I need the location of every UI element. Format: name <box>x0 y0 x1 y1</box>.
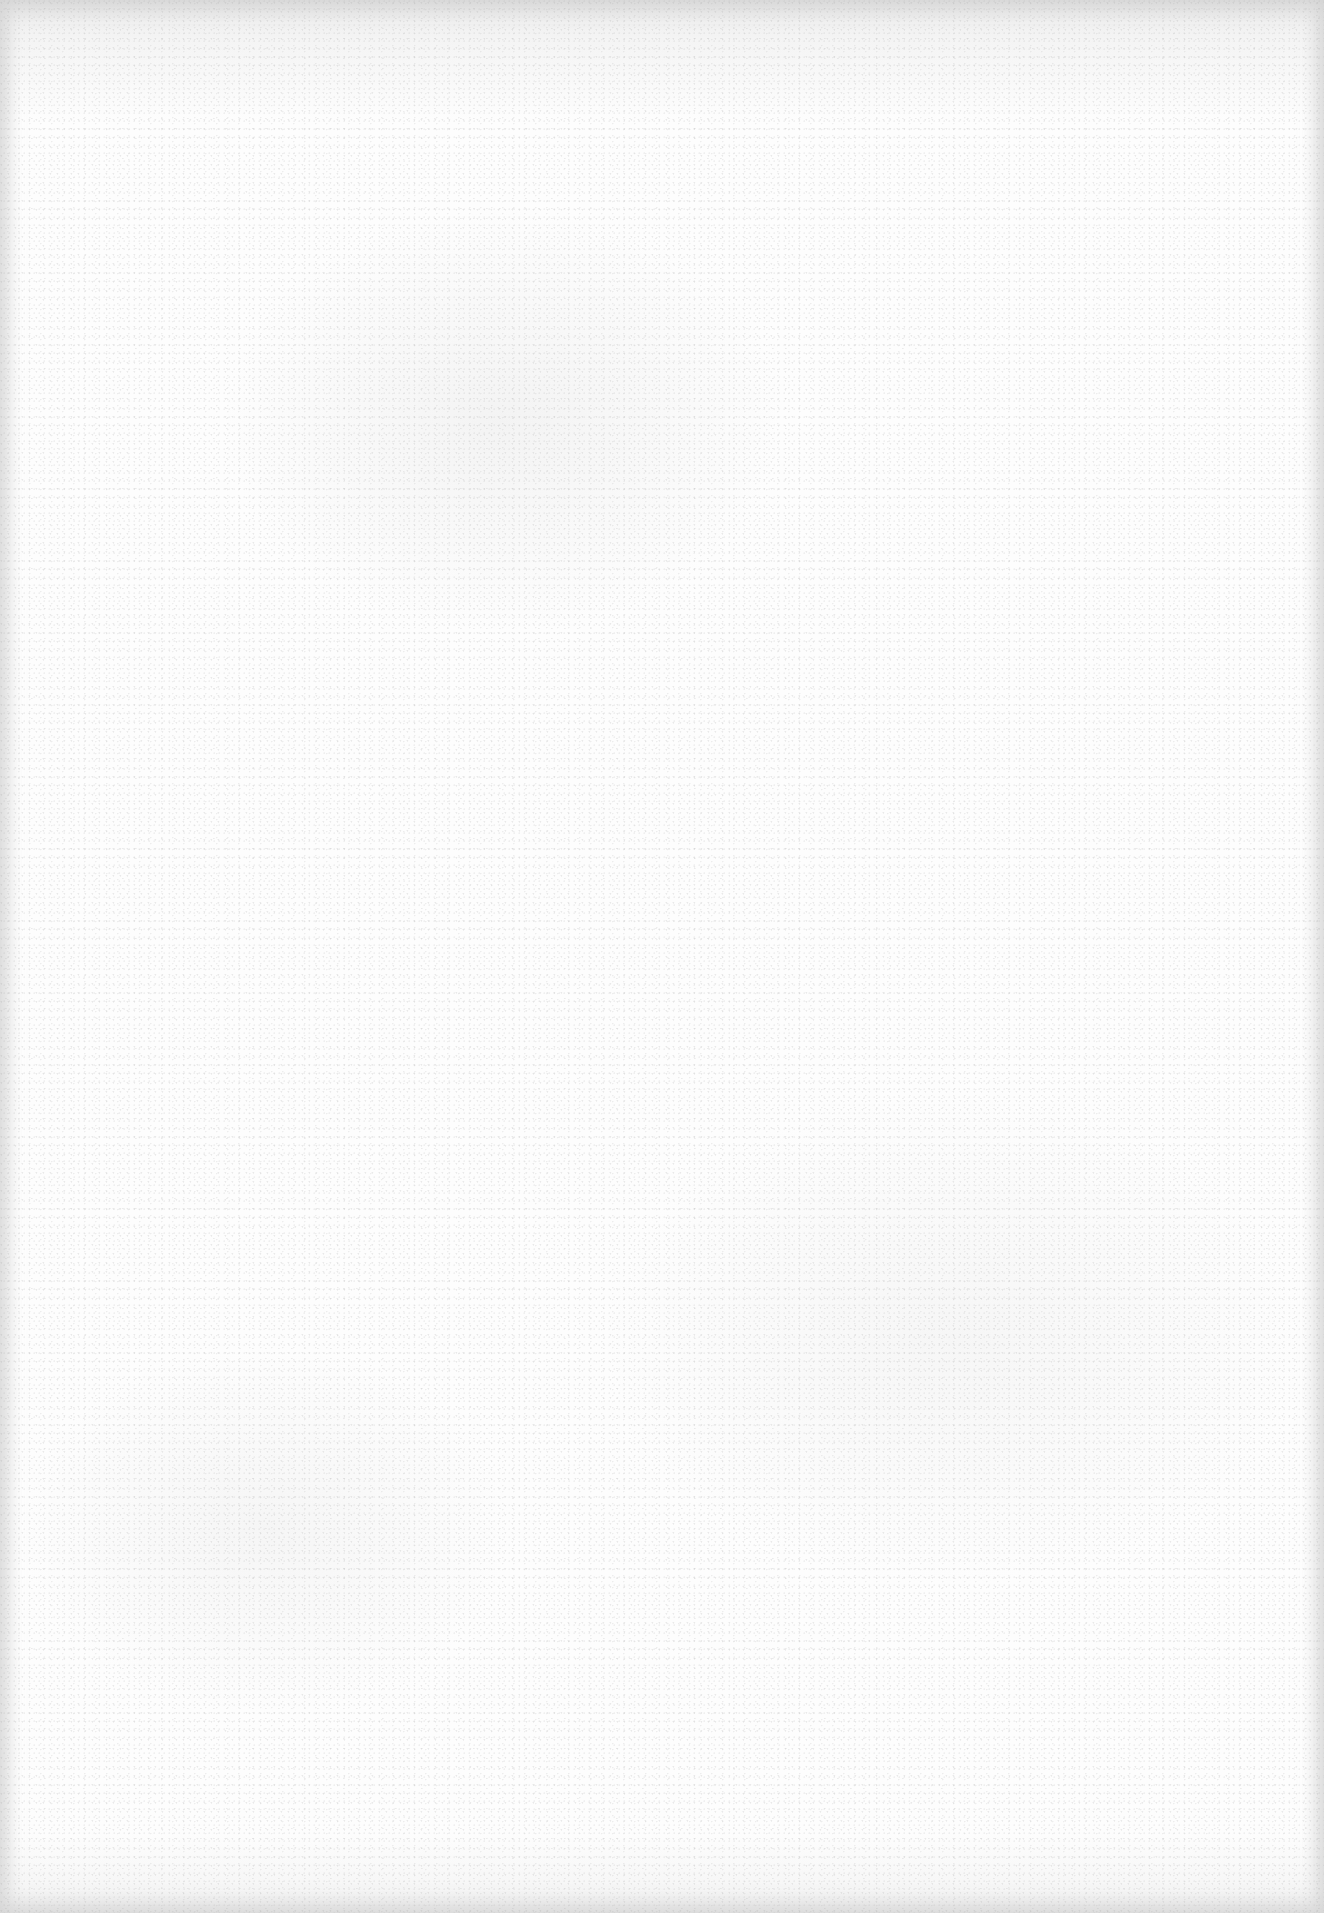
blank-scanned-page <box>0 0 1324 1913</box>
paper-mottle-texture <box>0 0 1324 1913</box>
paper-grain-texture <box>0 0 1324 1913</box>
